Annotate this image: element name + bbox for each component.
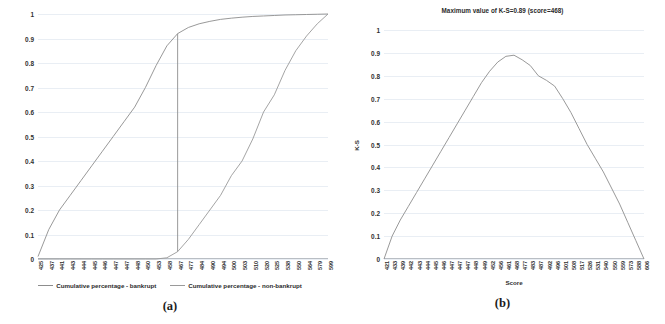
x-axis-tick-label: 433 xyxy=(392,261,398,270)
x-axis-tick-label: 425 xyxy=(38,261,44,270)
chart-b-series-line xyxy=(384,30,644,259)
chart-b-title: Maximum value of K-S=0.89 (score=468) xyxy=(340,7,665,14)
x-axis-tick-label: 446 xyxy=(441,261,447,270)
x-axis-tick-label: 483 xyxy=(530,261,536,270)
x-axis-tick-label: 492 xyxy=(547,261,553,270)
y-axis-tick-label: 0.4 xyxy=(371,164,380,171)
x-axis-tick-label: 484 xyxy=(199,261,205,270)
chart-a-plot-area xyxy=(38,14,328,259)
x-axis-tick-label: 573 xyxy=(628,261,634,270)
x-axis-tick-label: 447 xyxy=(124,261,130,270)
x-axis-tick-label: 487 xyxy=(538,261,544,270)
x-axis-tick-label: 490 xyxy=(210,261,216,270)
x-axis-tick-label: 510 xyxy=(253,261,259,270)
legend-swatch-icon xyxy=(170,285,185,286)
x-axis-tick-label: 444 xyxy=(425,261,431,270)
x-axis-tick-label: 538 xyxy=(285,261,291,270)
gridline xyxy=(384,259,644,260)
y-axis-tick-label: 0.1 xyxy=(25,231,34,238)
legend-entry[interactable]: Cumulative percentage - bankrupt xyxy=(38,282,156,289)
x-axis-tick-label: 444 xyxy=(81,261,87,270)
legend-label: Cumulative percentage - bankrupt xyxy=(56,282,156,289)
x-axis-tick-label: 503 xyxy=(242,261,248,270)
y-axis-tick-label: 0 xyxy=(30,256,34,263)
y-axis-tick-label: 0.9 xyxy=(371,49,380,56)
x-axis-tick-label: 447 xyxy=(457,261,463,270)
y-axis-tick-label: 0.4 xyxy=(25,158,34,165)
x-axis-tick-label: 443 xyxy=(417,261,423,270)
y-axis-tick-label: 1 xyxy=(30,11,34,18)
y-axis-tick-label: 0.3 xyxy=(371,187,380,194)
x-axis-tick-label: 439 xyxy=(400,261,406,270)
y-axis-tick-label: 0.8 xyxy=(371,72,380,79)
legend-swatch-icon xyxy=(38,285,53,286)
x-axis-tick-label: 501 xyxy=(563,261,569,270)
x-axis-tick-label: 442 xyxy=(408,261,414,270)
x-axis-tick-label: 579 xyxy=(317,261,323,270)
chart-a-legend: Cumulative percentage - bankruptCumulati… xyxy=(14,282,326,289)
y-axis-tick-label: 0.2 xyxy=(371,210,380,217)
x-axis-tick-label: 448 xyxy=(135,261,141,270)
x-axis-tick-label: 477 xyxy=(522,261,528,270)
chart-b-plot-area xyxy=(384,30,644,259)
y-axis-tick-label: 0.7 xyxy=(371,95,380,102)
x-axis-tick-label: 445 xyxy=(433,261,439,270)
y-axis-tick-label: 0 xyxy=(376,256,380,263)
x-axis-tick-label: 421 xyxy=(384,261,390,270)
x-axis-tick-label: 531 xyxy=(595,261,601,270)
chart-a-series-lines xyxy=(38,14,328,259)
x-axis-tick-label: 525 xyxy=(274,261,280,270)
x-axis-tick-label: 467 xyxy=(178,261,184,270)
x-axis-tick-label: 447 xyxy=(465,261,471,270)
y-axis-tick-label: 0.6 xyxy=(371,118,380,125)
chart-b-x-axis-title: Score xyxy=(384,279,644,286)
x-axis-tick-label: 477 xyxy=(188,261,194,270)
y-axis-tick-label: 0.3 xyxy=(25,182,34,189)
chart-a-y-axis-labels: 10.90.80.70.60.50.40.30.20.10 xyxy=(10,14,34,259)
chart-a-caption: (a) xyxy=(0,299,340,314)
x-axis-tick-label: 450 xyxy=(145,261,151,270)
x-axis-tick-label: 559 xyxy=(620,261,626,270)
x-axis-tick-label: 449 xyxy=(482,261,488,270)
x-axis-tick-label: 468 xyxy=(514,261,520,270)
chart-b-y-axis-labels: 10.90.80.70.60.50.40.30.20.10 xyxy=(356,30,380,259)
x-axis-tick-label: 494 xyxy=(221,261,227,270)
x-axis-tick-label: 456 xyxy=(498,261,504,270)
y-axis-tick-label: 0.1 xyxy=(371,233,380,240)
x-axis-tick-label: 540 xyxy=(603,261,609,270)
x-axis-tick-label: 508 xyxy=(571,261,577,270)
x-axis-tick-label: 520 xyxy=(264,261,270,270)
y-axis-tick-label: 0.9 xyxy=(25,35,34,42)
series-line xyxy=(38,14,328,259)
y-axis-tick-label: 0.7 xyxy=(25,84,34,91)
x-axis-tick-label: 550 xyxy=(296,261,302,270)
x-axis-tick-label: 599 xyxy=(328,261,334,270)
x-axis-tick-label: 588 xyxy=(636,261,642,270)
series-line xyxy=(38,14,328,257)
y-axis-tick-label: 1 xyxy=(376,27,380,34)
y-axis-tick-label: 0.5 xyxy=(25,133,34,140)
x-axis-tick-label: 500 xyxy=(231,261,237,270)
legend-entry[interactable]: Cumulative percentage - non-bankrupt xyxy=(170,282,301,289)
y-axis-tick-label: 0.6 xyxy=(25,109,34,116)
x-axis-tick-label: 526 xyxy=(587,261,593,270)
x-axis-tick-label: 446 xyxy=(102,261,108,270)
x-axis-tick-label: 606 xyxy=(644,261,650,270)
legend-label: Cumulative percentage - non-bankrupt xyxy=(188,282,301,289)
chart-a-x-axis-labels: 4254374414434444454464474474484504534584… xyxy=(38,261,328,295)
figure-container: 10.90.80.70.60.50.40.30.20.10 4254374414… xyxy=(0,0,665,324)
y-axis-tick-label: 0.8 xyxy=(25,60,34,67)
x-axis-tick-label: 447 xyxy=(449,261,455,270)
y-axis-tick-label: 0.5 xyxy=(371,141,380,148)
series-line xyxy=(384,55,644,259)
x-axis-tick-label: 550 xyxy=(612,261,618,270)
x-axis-tick-label: 437 xyxy=(49,261,55,270)
x-axis-tick-label: 452 xyxy=(490,261,496,270)
chart-b-caption: (b) xyxy=(340,296,665,311)
x-axis-tick-label: 443 xyxy=(70,261,76,270)
x-axis-tick-label: 447 xyxy=(113,261,119,270)
x-axis-tick-label: 453 xyxy=(156,261,162,270)
y-axis-tick-label: 0.2 xyxy=(25,207,34,214)
chart-panel-b: Maximum value of K-S=0.89 (score=468) K-… xyxy=(340,0,665,324)
x-axis-tick-label: 564 xyxy=(307,261,313,270)
